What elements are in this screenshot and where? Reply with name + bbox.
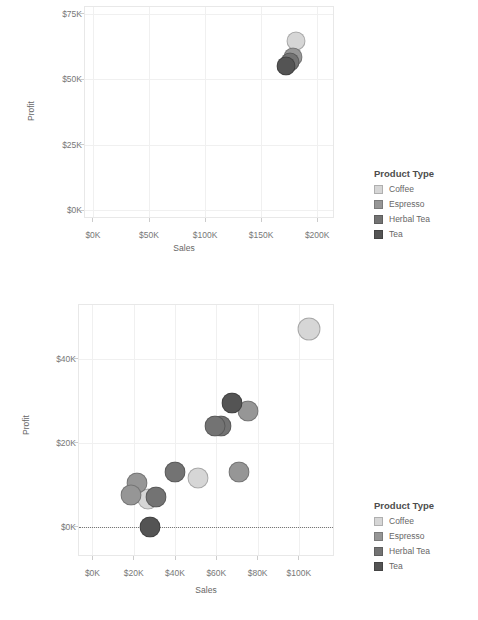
data-marks-bottom (0, 295, 360, 620)
scatter-point-herbal-tea[interactable] (146, 487, 167, 508)
legend-title-bottom: Product Type (374, 500, 474, 511)
legend-product-type-bottom: Product Type CoffeeEspressoHerbal TeaTea (374, 500, 474, 576)
legend-item-tea-bottom[interactable]: Tea (374, 561, 474, 571)
legend-item-label: Herbal Tea (389, 214, 430, 224)
legend-item-label: Coffee (389, 516, 414, 526)
legend-item-herbal-tea-bottom[interactable]: Herbal Tea (374, 546, 474, 556)
scatter-chart-sales-vs-profit-top: Profit Sales $0K$25K$50K$75K $0K$50K$100… (0, 0, 360, 270)
legend-item-label: Tea (389, 561, 403, 571)
scatter-point-herbal-tea[interactable] (165, 462, 186, 483)
legend-item-label: Coffee (389, 184, 414, 194)
scatter-point-tea[interactable] (221, 392, 242, 413)
legend-item-espresso-top[interactable]: Espresso (374, 199, 474, 209)
scatter-point-coffee[interactable] (187, 468, 208, 489)
legend-swatch-icon (374, 230, 383, 239)
legend-swatch-icon (374, 517, 383, 526)
legend-item-espresso-bottom[interactable]: Espresso (374, 531, 474, 541)
scatter-point-tea[interactable] (276, 57, 295, 76)
legend-swatch-icon (374, 215, 383, 224)
legend-item-coffee-bottom[interactable]: Coffee (374, 516, 474, 526)
legend-swatch-icon (374, 185, 383, 194)
legend-item-herbal-tea-top[interactable]: Herbal Tea (374, 214, 474, 224)
scatter-point-coffee[interactable] (298, 318, 321, 341)
legend-item-coffee-top[interactable]: Coffee (374, 184, 474, 194)
scatter-point-espresso[interactable] (120, 485, 141, 506)
data-marks-top (0, 0, 360, 270)
legend-swatch-icon (374, 562, 383, 571)
legend-product-type-top: Product Type CoffeeEspressoHerbal TeaTea (374, 168, 474, 244)
legend-items-bottom: CoffeeEspressoHerbal TeaTea (374, 516, 474, 571)
scatter-point-herbal-tea[interactable] (205, 415, 226, 436)
legend-item-tea-top[interactable]: Tea (374, 229, 474, 239)
legend-swatch-icon (374, 200, 383, 209)
legend-item-label: Tea (389, 229, 403, 239)
legend-swatch-icon (374, 532, 383, 541)
legend-item-label: Espresso (389, 199, 424, 209)
scatter-point-espresso[interactable] (229, 462, 250, 483)
legend-swatch-icon (374, 547, 383, 556)
legend-item-label: Espresso (389, 531, 424, 541)
scatter-chart-sales-vs-profit-bottom: Profit Sales $0K$20K$40K $0K$20K$40K$60K… (0, 295, 360, 620)
legend-item-label: Herbal Tea (389, 546, 430, 556)
legend-items-top: CoffeeEspressoHerbal TeaTea (374, 184, 474, 239)
legend-title-top: Product Type (374, 168, 474, 179)
scatter-point-tea[interactable] (140, 516, 161, 537)
